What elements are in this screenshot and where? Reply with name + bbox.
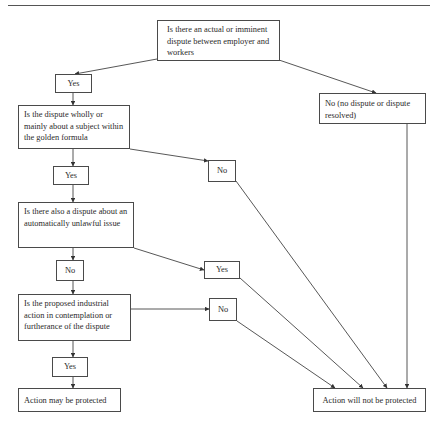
answer-yes-dispute: Yes — [55, 74, 92, 93]
outcome-may-be-protected: Action may be protected — [18, 388, 121, 412]
answer-yes-contemplation: Yes — [52, 357, 88, 377]
question-actual-dispute: Is there an actual or imminent dispute b… — [157, 20, 280, 61]
question-golden-formula: Is the dispute wholly or mainly about a … — [18, 105, 130, 149]
edge-q1-no-right — [279, 60, 376, 93]
answer-yes-unlawful-issue: Yes — [204, 261, 240, 279]
answer-no-golden-formula: No — [208, 160, 236, 182]
question-unlawful-issue: Is there also a dispute about an automat… — [18, 202, 134, 248]
answer-yes-golden-formula: Yes — [53, 166, 89, 185]
answer-no-contemplation: No — [209, 298, 237, 321]
question-contemplation-furtherance: Is the proposed industrial action in con… — [18, 294, 131, 341]
edge-yes-mid-final-right — [240, 278, 363, 388]
edge-no-mid-final-right — [236, 181, 387, 388]
answer-no-dispute: No (no dispute or dispute resolved) — [319, 93, 426, 124]
answer-no-unlawful-issue: No — [56, 260, 84, 281]
edge-no3-final-right — [237, 321, 335, 388]
edge-q3-yes-mid — [134, 248, 204, 270]
edge-q1-yes1 — [75, 59, 157, 74]
edge-q2-no-mid — [130, 149, 208, 161]
outcome-not-protected: Action will not be protected — [313, 388, 426, 412]
